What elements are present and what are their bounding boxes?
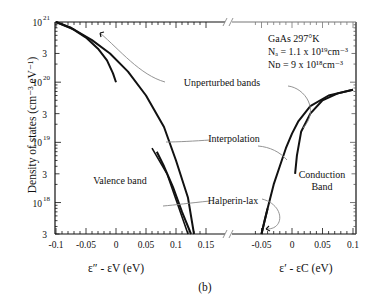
y-tick-label: 3 — [42, 49, 47, 59]
svg-text:21: 21 — [43, 14, 51, 22]
curve-conduction-unperturbed-bands — [295, 90, 353, 174]
x-tick-label: -0.1 — [48, 240, 63, 250]
x-tick-label: 0.05 — [314, 240, 331, 250]
info-material: GaAs 297°K — [268, 33, 320, 44]
curve-conduction-halperin-lax — [262, 208, 268, 234]
x-tick-label: 0.1 — [170, 240, 182, 250]
curve-conduction-interpolation — [262, 90, 354, 234]
subfigure-label: (b) — [198, 281, 212, 294]
x-tick-label: 0.15 — [198, 240, 215, 250]
label-interpolation: Interpolation — [208, 133, 260, 144]
x-tick-label: -0.05 — [76, 240, 96, 250]
svg-text:20: 20 — [43, 74, 51, 82]
label-conduction-band: Conduction — [299, 169, 346, 180]
x-tick-label: -0.05 — [252, 240, 272, 250]
info-na: Nₐ = 1.1 x 10¹⁹cm⁻³ — [268, 46, 348, 57]
x-tick-label: 0.1 — [347, 240, 359, 250]
text-labels: 10213102031019310183-0.1-0.0500.050.10.1… — [33, 14, 360, 294]
label-unperturbed-bands: Unperturbed bands — [184, 77, 260, 88]
label-halperin-lax: Halperin-lax — [208, 195, 259, 206]
curve-valence-interpolation — [56, 22, 194, 234]
x-tick-label: 0 — [290, 240, 295, 250]
label-valence-band: Valence band — [93, 175, 147, 186]
density-of-states-chart: 10213102031019310183-0.1-0.0500.050.10.1… — [0, 0, 373, 298]
x-axis-title-conduction: ε′ - εC (eV) — [279, 262, 333, 275]
x-tick-label: 0 — [114, 240, 119, 250]
y-tick-label: 3 — [42, 110, 47, 120]
y-tick-label: 3 — [42, 230, 47, 240]
y-tick-label: 3 — [42, 170, 47, 180]
info-nd: Nᴅ = 9 x 10¹⁸cm⁻³ — [268, 59, 343, 70]
label-conduction-band-2: Band — [311, 181, 332, 192]
x-axis-title-valence: ε″ - εV (eV) — [88, 262, 144, 275]
y-tick-label: 10 — [33, 18, 43, 28]
svg-text:18: 18 — [43, 195, 51, 203]
y-axis-title: Density of states (cm⁻³ eV⁻¹) — [25, 35, 39, 215]
svg-text:19: 19 — [43, 134, 51, 142]
x-tick-label: 0.05 — [138, 240, 155, 250]
